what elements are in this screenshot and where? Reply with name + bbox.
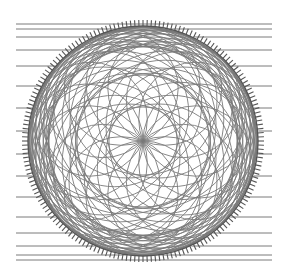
rim-tick bbox=[228, 60, 232, 64]
rim-tick bbox=[102, 249, 104, 255]
rim-tick bbox=[255, 169, 261, 170]
rim-tick bbox=[186, 248, 188, 254]
rim-tick bbox=[45, 70, 50, 74]
rim-tick bbox=[59, 54, 63, 58]
rim-tick bbox=[223, 54, 227, 58]
rim-tick bbox=[182, 27, 184, 33]
rim-tick bbox=[98, 248, 100, 254]
rim-tick bbox=[255, 116, 261, 117]
rim-tick bbox=[90, 244, 93, 249]
rim-tick bbox=[243, 199, 248, 202]
rim-tick bbox=[114, 253, 115, 259]
rim-tick bbox=[32, 92, 37, 94]
rim-tick bbox=[24, 120, 30, 121]
rim-tick bbox=[31, 96, 37, 98]
rim-tick bbox=[228, 218, 232, 222]
rim-tick bbox=[193, 244, 196, 249]
rim-tick bbox=[26, 112, 32, 113]
rim-tick bbox=[197, 243, 200, 248]
rim-tick bbox=[83, 241, 86, 246]
rim-tick bbox=[23, 128, 29, 129]
rim-tick bbox=[231, 63, 236, 67]
rim-tick bbox=[53, 218, 57, 222]
rim-tick bbox=[48, 212, 53, 216]
rim-tick bbox=[98, 29, 100, 35]
rim-tick bbox=[252, 177, 258, 179]
rim-tick bbox=[26, 169, 32, 170]
rim-tick bbox=[62, 226, 66, 230]
rim-tick bbox=[65, 48, 69, 53]
rim-tick bbox=[254, 173, 260, 175]
rim-tick bbox=[182, 249, 184, 255]
rim-tick bbox=[62, 51, 66, 55]
rim-tick bbox=[256, 161, 262, 162]
rim-tick bbox=[251, 180, 257, 182]
rim-tick bbox=[214, 232, 218, 237]
rim-tick bbox=[220, 51, 224, 55]
rim-tick bbox=[24, 161, 30, 162]
rim-tick bbox=[45, 209, 50, 213]
rim-tick bbox=[238, 205, 243, 208]
rim-tick bbox=[250, 184, 256, 186]
rim-tick bbox=[27, 173, 33, 175]
rim-tick bbox=[246, 191, 251, 194]
rim-tick bbox=[257, 153, 263, 154]
rim-tick bbox=[130, 255, 131, 261]
rim-tick bbox=[190, 30, 192, 35]
rim-tick bbox=[72, 43, 76, 48]
rim-tick bbox=[94, 30, 96, 35]
rim-tick bbox=[211, 43, 215, 48]
rim-tick bbox=[28, 104, 34, 106]
rim-tick bbox=[59, 224, 63, 228]
rim-tick bbox=[175, 252, 177, 258]
rim-tick bbox=[53, 60, 57, 64]
rim-tick bbox=[28, 177, 34, 179]
rim-tick bbox=[175, 25, 177, 31]
rim-tick bbox=[186, 29, 188, 35]
rim-tick bbox=[32, 188, 37, 190]
rim-tick bbox=[86, 243, 89, 248]
rim-tick bbox=[110, 252, 112, 258]
rim-tick bbox=[155, 255, 156, 261]
rim-tick bbox=[236, 70, 241, 74]
rim-tick bbox=[248, 92, 253, 94]
rim-tick bbox=[38, 199, 43, 202]
rim-tick bbox=[79, 38, 82, 43]
rim-tick bbox=[31, 184, 37, 186]
rim-tick bbox=[25, 165, 31, 166]
rim-tick bbox=[211, 234, 215, 239]
rim-tick bbox=[56, 221, 60, 225]
rim-tick bbox=[34, 88, 39, 91]
rim-tick bbox=[40, 202, 45, 205]
rim-tick bbox=[34, 191, 39, 194]
rim-tick bbox=[40, 77, 45, 80]
rim-tick bbox=[167, 253, 168, 259]
rim-tick bbox=[118, 253, 119, 259]
rim-tick bbox=[257, 128, 263, 129]
rim-tick bbox=[226, 57, 230, 61]
rim-tick bbox=[234, 67, 239, 71]
rim-tick bbox=[29, 180, 35, 182]
rim-tick bbox=[110, 25, 112, 31]
rim-tick bbox=[29, 100, 35, 102]
rim-tick bbox=[56, 57, 60, 61]
rim-tick bbox=[190, 246, 192, 251]
rim-tick bbox=[217, 48, 221, 53]
rim-tick bbox=[256, 120, 262, 121]
rim-tick bbox=[201, 241, 204, 246]
rim-tick bbox=[38, 81, 43, 84]
rim-tick bbox=[252, 104, 258, 106]
rim-tick bbox=[50, 63, 55, 67]
rim-tick bbox=[207, 236, 210, 241]
rim-tick bbox=[207, 41, 210, 46]
diagram-canvas bbox=[0, 0, 285, 280]
rim-tick bbox=[255, 112, 261, 113]
rim-tick bbox=[75, 236, 78, 241]
rim-tick bbox=[250, 96, 256, 98]
rosette-diagram bbox=[0, 0, 285, 280]
rim-tick bbox=[69, 232, 73, 237]
rim-tick bbox=[25, 116, 31, 117]
rim-tick bbox=[255, 165, 261, 166]
rim-tick bbox=[94, 246, 96, 251]
rim-tick bbox=[226, 221, 230, 225]
